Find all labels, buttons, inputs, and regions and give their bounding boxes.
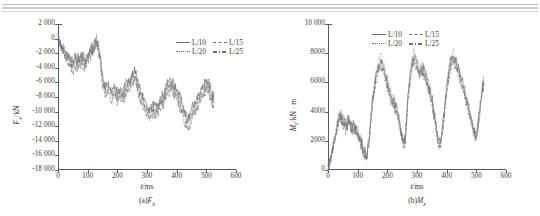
legend-swatch-l20-a: [176, 51, 190, 52]
legend-item-l15-b: L/15: [409, 30, 439, 39]
legend-label-l10-b: L/10: [388, 30, 402, 39]
legend-swatch-l25-b: [409, 43, 423, 45]
legend-item-l25-a: L/25: [213, 47, 243, 56]
legend-item-l10-b: L/10: [372, 30, 402, 39]
y-tick-label: -4 000: [36, 64, 55, 71]
y-tick-label: -16 000: [32, 152, 55, 159]
legend-a: L/10 L/15 L/20 L/25: [176, 38, 247, 56]
y-tick-label: 2 000: [38, 20, 55, 27]
x-tick-mark: [58, 170, 59, 173]
legend-item-l10-a: L/10: [176, 38, 206, 47]
x-tick-label: 100: [352, 173, 363, 180]
x-tick-mark: [88, 170, 89, 173]
x-tick-mark: [358, 170, 359, 173]
legend-row-a-1: L/10 L/15: [176, 38, 247, 47]
y-tick-label: 2000: [310, 137, 325, 144]
x-tick-label: 200: [112, 173, 123, 180]
y-axis-var-b: M: [289, 125, 298, 131]
y-tick-label: -8 000: [36, 93, 55, 100]
x-tick-label: 400: [171, 173, 182, 180]
legend-row-a-2: L/20 L/25: [176, 47, 247, 56]
y-tick-label: -14 000: [32, 137, 55, 144]
legend-item-l20-b: L/20: [372, 39, 402, 48]
x-tick-mark: [147, 170, 148, 173]
x-tick-mark: [506, 170, 507, 173]
legend-item-l15-a: L/15: [213, 38, 243, 47]
x-tick-mark: [236, 170, 237, 173]
y-axis-label-a: Fx/kN: [12, 106, 23, 125]
scan-rule-middle: [2, 7, 538, 9]
y-tick-label: -2 000: [36, 50, 55, 57]
legend-label-l10-a: L/10: [192, 38, 206, 47]
x-tick-label: 0: [326, 173, 330, 180]
series-line-L-20: [328, 47, 484, 166]
x-tick-mark: [387, 170, 388, 173]
scan-rule-bottom: [2, 11, 538, 12]
x-tick-label: 600: [231, 173, 242, 180]
legend-label-l20-b: L/20: [388, 39, 402, 48]
legend-swatch-l15-a: [213, 42, 227, 43]
caption-prefix-b: (b): [408, 196, 417, 205]
legend-label-l15-b: L/15: [425, 30, 439, 39]
legend-label-l25-a: L/25: [229, 47, 243, 56]
x-tick-mark: [476, 170, 477, 173]
legend-swatch-l15-b: [409, 34, 423, 35]
x-tick-mark: [206, 170, 207, 173]
legend-swatch-l20-b: [372, 43, 386, 44]
plot-area-b: 0200040006000800010 000 0100200300400500…: [328, 24, 506, 170]
y-tick-label: -12 000: [32, 123, 55, 130]
y-axis-unit-b: /kN · m: [289, 99, 298, 123]
legend-label-l20-a: L/20: [192, 47, 206, 56]
x-axis-label-a: t/ms: [58, 182, 236, 191]
x-tick-label: 100: [82, 173, 93, 180]
figure-container: Fx/kN 2 0000-2 000-4 000-6 000-8 000-10 …: [0, 14, 540, 216]
y-tick-label: -18 000: [32, 166, 55, 173]
y-tick-label: 4000: [310, 108, 325, 115]
x-tick-label: 600: [501, 173, 512, 180]
legend-row-b-1: L/10 L/15: [372, 30, 443, 39]
x-tick-mark: [117, 170, 118, 173]
x-axis-unit-a: /ms: [143, 182, 154, 191]
series-line-L-15: [328, 56, 484, 171]
y-axis-unit-a: /kN: [12, 106, 21, 117]
scan-artifact-rules: [0, 0, 540, 14]
y-axis-sub-b: z: [292, 122, 299, 124]
y-tick-label: 10 000: [305, 20, 325, 27]
x-axis-label-b: t/ms: [328, 182, 506, 191]
scan-rule-top: [2, 4, 538, 5]
x-tick-mark: [177, 170, 178, 173]
y-axis-var-a: F: [12, 120, 21, 125]
x-tick-label: 500: [471, 173, 482, 180]
x-tick-label: 0: [56, 173, 60, 180]
x-tick-label: 300: [412, 173, 423, 180]
chart-panel-b: Mz/kN · m 0200040006000800010 000 010020…: [270, 14, 540, 216]
x-tick-label: 300: [142, 173, 153, 180]
chart-panel-a: Fx/kN 2 0000-2 000-4 000-6 000-8 000-10 …: [0, 14, 270, 216]
y-axis-label-b: Mz/kN · m: [289, 99, 300, 131]
legend-b: L/10 L/15 L/20 L/25: [372, 30, 443, 48]
x-tick-label: 200: [382, 173, 393, 180]
x-tick-label: 400: [441, 173, 452, 180]
legend-item-l25-b: L/25: [409, 39, 439, 48]
x-tick-label: 500: [201, 173, 212, 180]
x-tick-mark: [417, 170, 418, 173]
plot-area-a: 2 0000-2 000-4 000-6 000-8 000-10 000-12…: [58, 24, 236, 170]
y-tick-label: 6000: [310, 79, 325, 86]
legend-item-l20-a: L/20: [176, 47, 206, 56]
legend-row-b-2: L/20 L/25: [372, 39, 443, 48]
legend-label-l25-b: L/25: [425, 39, 439, 48]
panel-caption-b: (b)Mz: [328, 196, 506, 207]
y-tick-label: -10 000: [32, 108, 55, 115]
legend-swatch-l10-b: [372, 34, 386, 35]
legend-swatch-l25-a: [213, 51, 227, 53]
caption-sub-a: x: [152, 200, 155, 207]
caption-sub-b: z: [423, 200, 425, 207]
y-tick-label: -6 000: [36, 79, 55, 86]
x-axis-unit-b: /ms: [413, 182, 424, 191]
panel-caption-a: (a)Fx: [58, 196, 236, 207]
legend-label-l15-a: L/15: [229, 38, 243, 47]
legend-swatch-l10-a: [176, 42, 190, 43]
x-tick-mark: [447, 170, 448, 173]
y-tick-label: 8000: [310, 50, 325, 57]
